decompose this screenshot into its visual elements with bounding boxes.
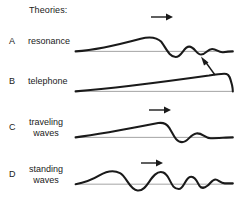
- row-label-resonance: resonance: [28, 36, 70, 47]
- arrow-right-d: [140, 158, 164, 168]
- row-letter-a: A: [9, 36, 15, 46]
- figure-title: Theories:: [29, 5, 67, 15]
- row-letter-b: B: [9, 76, 15, 86]
- row-label-standing-waves: standing waves: [22, 164, 70, 186]
- row-letter-c: C: [9, 122, 16, 132]
- row-label-traveling-waves: traveling waves: [22, 117, 70, 139]
- row-label-telephone: telephone: [28, 76, 68, 87]
- arrow-diagonal-b: [199, 55, 219, 77]
- theories-figure: Theories: A resonance B telephone: [0, 0, 237, 204]
- traveling-waves-curve: [74, 112, 236, 158]
- row-letter-d: D: [9, 169, 16, 179]
- arrow-right-c: [148, 105, 172, 115]
- arrow-right-a: [150, 12, 174, 22]
